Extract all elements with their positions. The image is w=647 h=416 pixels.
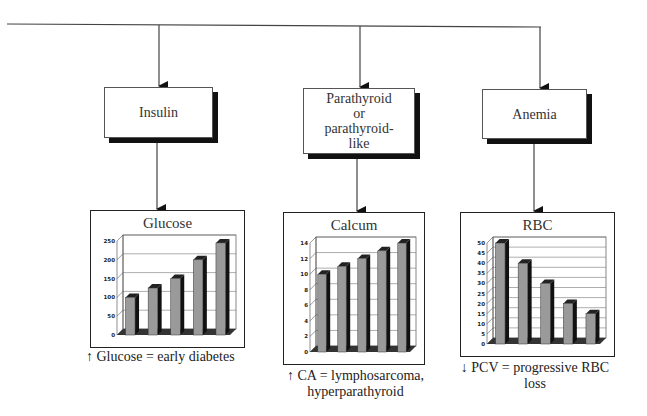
svg-text:10: 10 [300,271,308,277]
svg-text:4: 4 [304,318,308,324]
svg-text:10: 10 [477,321,485,327]
caption-rbc-line-1: PCV = progressive RBC [471,360,609,375]
svg-text:0: 0 [304,349,308,355]
node-anemia-label: Anemia [512,106,556,123]
svg-text:8: 8 [304,287,308,293]
node-parathyroid-line-1: Parathyroid [326,91,391,106]
svg-text:100: 100 [104,294,116,300]
node-parathyroid-line-3: parathyroid- [324,121,393,136]
chart-rbc: RBC 05101520253035404550 [460,212,615,357]
svg-text:45: 45 [477,250,485,256]
svg-text:0: 0 [481,341,485,347]
svg-text:50: 50 [107,313,115,319]
svg-text:150: 150 [104,276,116,282]
svg-text:0: 0 [111,332,115,338]
node-anemia: Anemia [482,89,587,139]
svg-text:40: 40 [477,260,485,266]
caption-glucose: ↑ Glucose = early diabetes [86,349,256,365]
caption-calcium: ↑ CA = lymphosarcoma, hyperparathyroid [278,368,433,400]
caption-calcium-line-1: CA = lymphosarcoma, [298,368,425,383]
svg-text:50: 50 [477,240,485,246]
svg-text:35: 35 [477,270,485,276]
svg-text:14: 14 [300,240,308,246]
svg-text:15: 15 [477,311,485,317]
node-parathyroid-line-4: like [349,136,370,151]
caption-calcium-line-2: hyperparathyroid [278,384,433,400]
chart-rbc-plot: 05101520253035404550 [461,213,614,356]
caption-glucose-text: Glucose = early diabetes [97,349,235,364]
svg-text:20: 20 [477,301,485,307]
node-insulin-label: Insulin [139,104,178,121]
svg-text:5: 5 [481,331,485,337]
chart-calcium-plot: 02468101214 [284,213,424,364]
up-arrow-icon: ↑ [86,349,93,364]
chart-calcium: Calcum 02468101214 [283,212,425,365]
svg-text:12: 12 [300,256,308,262]
svg-text:250: 250 [104,238,116,244]
chart-glucose: Glucose 050100150200250 [90,210,245,348]
node-insulin: Insulin [104,87,213,138]
svg-text:30: 30 [477,280,485,286]
down-arrow-icon: ↓ [461,360,468,375]
caption-rbc-line-2: loss [440,376,630,392]
svg-text:200: 200 [104,257,116,263]
node-parathyroid-line-2: or [353,106,365,121]
chart-glucose-plot: 050100150200250 [91,211,244,347]
node-parathyroid: Parathyroid or parathyroid- like [303,88,415,154]
top-trunk-line [7,24,541,27]
svg-text:2: 2 [304,333,308,339]
svg-text:25: 25 [477,291,485,297]
caption-rbc: ↓ PCV = progressive RBC loss [440,360,630,392]
up-arrow-icon: ↑ [287,368,294,383]
svg-text:6: 6 [304,302,308,308]
